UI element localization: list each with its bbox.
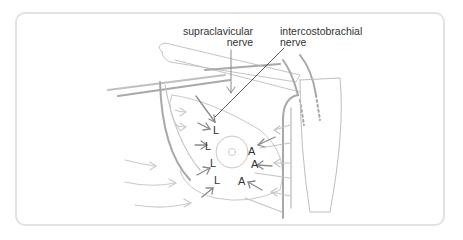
upper-arm-outline — [300, 78, 341, 212]
lateral-marker: L — [205, 140, 211, 152]
lateral-marker: L — [210, 157, 216, 169]
intercostobrachial-pointer — [215, 48, 284, 117]
nipple — [229, 149, 236, 156]
anterior-marker: A — [251, 158, 258, 170]
areola — [216, 136, 248, 168]
clavicle-outline — [159, 43, 300, 82]
lateral-edge — [160, 82, 190, 180]
lateral-edge-inner — [165, 85, 200, 170]
lateral-marker: L — [214, 174, 220, 186]
pectoral-line — [175, 60, 300, 92]
lateral-incoming-arrows — [125, 108, 191, 207]
intercostobrachial-label: intercostobrachial nerve — [280, 26, 362, 48]
dashed-vessel-2 — [316, 95, 320, 120]
anterior-marker: A — [238, 175, 245, 187]
lateral-marker: L — [213, 124, 219, 136]
axillary-curve-2 — [300, 55, 316, 95]
clavicle-dark-bar — [205, 64, 280, 70]
anterior-marker: A — [248, 145, 255, 157]
supraclavicular-label: supraclavicular nerve — [171, 26, 253, 48]
breast-outline — [172, 95, 283, 200]
